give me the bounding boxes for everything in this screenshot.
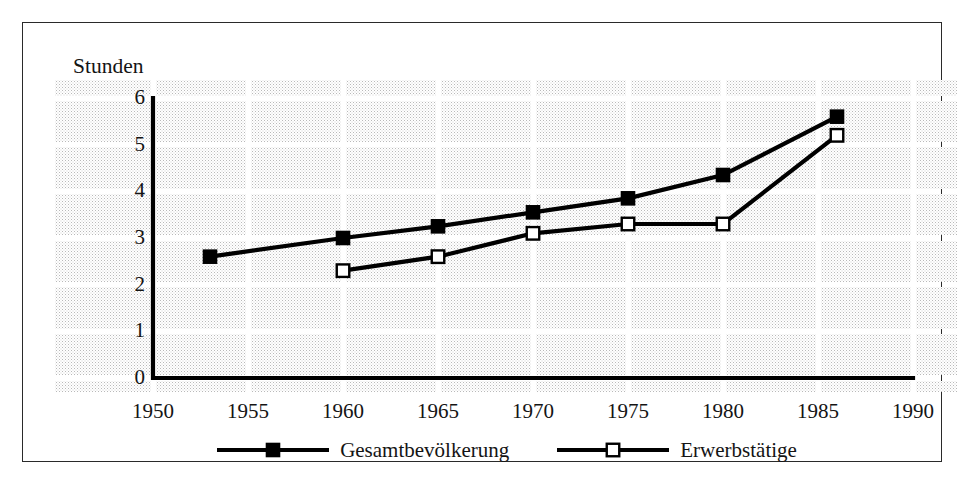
chart-figure: 0123456 Stunden 195019551960196519701975… [0,0,964,485]
y-axis-title: Stunden [73,56,143,78]
data-point-filled-square [831,110,844,123]
figure-border: 0123456 Stunden 195019551960196519701975… [22,22,942,462]
legend-entry: Gesamtbevölkerung [215,439,509,461]
data-point-hollow-square [831,129,844,142]
data-point-hollow-square [717,218,730,231]
legend-entry: Erwerbstätige [555,439,797,461]
x-tick-label: 1985 [778,401,858,422]
data-point-filled-square [204,250,217,263]
data-point-filled-square [717,169,730,182]
chart-legend: GesamtbevölkerungErwerbstätige [55,427,957,473]
y-tick-label: 1 [101,320,145,341]
y-tick-label: 4 [101,180,145,201]
plot-area: 0123456 Stunden [55,53,957,393]
series-1 [204,110,844,263]
y-tick-label: 3 [101,227,145,248]
x-tick-label: 1980 [683,401,763,422]
data-point-filled-square [432,220,445,233]
x-tick-label: 1975 [588,401,668,422]
x-tick-label: 1990 [873,401,953,422]
x-tick-label: 1955 [208,401,288,422]
x-tick-label: 1965 [398,401,478,422]
x-tick-label: 1960 [303,401,383,422]
x-tick-label: 1970 [493,401,573,422]
data-point-filled-square [337,232,350,245]
y-tick-label: 2 [101,274,145,295]
data-point-filled-square [622,192,635,205]
chart-canvas: 0123456 Stunden 195019551960196519701975… [55,53,957,477]
y-tick-label: 6 [101,87,145,108]
data-point-hollow-square [622,218,635,231]
y-tick-label: 5 [101,134,145,155]
data-point-filled-square [527,206,540,219]
data-point-hollow-square [432,250,445,262]
data-point-hollow-square [527,227,540,240]
data-point-hollow-square [337,264,350,277]
x-tick-label: 1950 [113,401,193,422]
legend-swatch-filled-square [215,439,331,461]
legend-swatch-hollow-square [555,439,671,461]
plot-graphics [55,53,957,393]
legend-label: Gesamtbevölkerung [340,440,509,461]
legend-label: Erwerbstätige [680,440,797,461]
y-tick-label: 0 [101,367,145,388]
